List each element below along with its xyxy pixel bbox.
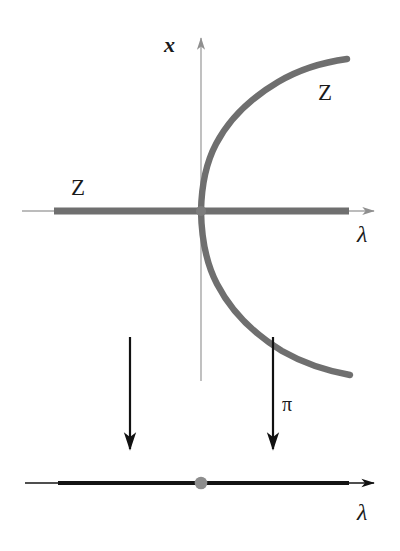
bifurcation-diagram-figure: x Z Z λ π λ (0, 0, 400, 551)
bifurcation-point-dot (196, 206, 206, 216)
lower-parabola-branch (201, 211, 350, 375)
vertical-axis-label: x (164, 34, 175, 56)
branch-label-z-right: Z (318, 81, 332, 104)
horizontal-axis-label-top: λ (357, 222, 367, 246)
diagram-canvas (0, 0, 400, 551)
quotient-fixed-point-dot (195, 477, 208, 490)
horizontal-axis-label-bottom: λ (357, 500, 367, 524)
projection-map-label: π (282, 394, 292, 414)
branch-label-z-left: Z (71, 176, 85, 199)
